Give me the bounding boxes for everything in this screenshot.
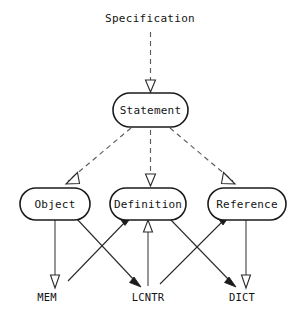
node-object[interactable]: Object [20, 188, 90, 220]
arrowhead-open-to-statement [146, 80, 156, 92]
node-statement-label: Statement [120, 104, 181, 117]
edge-lcntr-to-reference [160, 220, 224, 284]
arrowhead-open-to-definition [146, 174, 156, 186]
node-reference[interactable]: Reference [208, 188, 286, 220]
edge-object-to-lcntr [76, 218, 135, 281]
specification-flow-diagram: Specification [0, 0, 299, 318]
arrowhead-filled-to-dict [225, 277, 237, 287]
node-object-label: Object [35, 198, 76, 211]
store-label-mem: MEM [37, 291, 57, 303]
store-label-lcntr: LCNTR [132, 291, 165, 303]
node-definition-label: Definition [114, 198, 182, 211]
edge-mem-to-definition [68, 220, 127, 281]
diagram-canvas: Specification [0, 0, 299, 318]
arrowhead-open-to-definition-bottom [144, 220, 153, 232]
arrowhead-open-to-mem [51, 275, 60, 288]
node-reference-label: Reference [216, 198, 277, 211]
arrowhead-open-to-reference [222, 173, 236, 185]
diagram-title: Specification [105, 12, 195, 25]
arrowhead-filled-to-lcntr [130, 277, 142, 287]
node-definition[interactable]: Definition [110, 188, 186, 220]
node-statement[interactable]: Statement [113, 93, 188, 127]
arrowhead-open-to-object [66, 173, 80, 185]
arrowhead-open-to-dict [242, 275, 251, 288]
store-label-dict: DICT [229, 291, 256, 303]
edge-definition-to-dict [170, 219, 230, 281]
